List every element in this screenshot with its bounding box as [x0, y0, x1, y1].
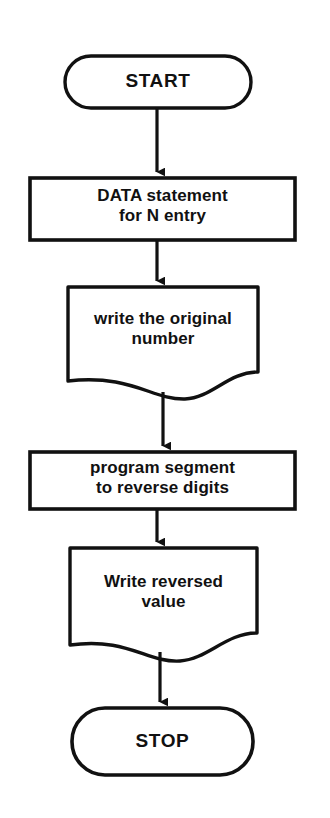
node-write-reversed-shape	[70, 548, 257, 661]
flowchart-diagram	[0, 0, 330, 818]
node-data-statement-shape	[30, 178, 295, 240]
node-write-original-shape	[68, 287, 258, 399]
node-start-shape	[65, 56, 251, 108]
node-reverse-digits-shape	[30, 452, 295, 509]
node-stop-shape	[72, 708, 253, 775]
